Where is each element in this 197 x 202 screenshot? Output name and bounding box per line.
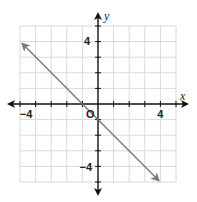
x-tick-label-pos4: 4	[157, 108, 164, 120]
x-axis-label: x	[179, 89, 186, 103]
y-axis-label: y	[103, 9, 110, 23]
line-upper-segment	[23, 44, 83, 104]
x-tick-label-neg4: −4	[20, 108, 33, 120]
y-tick-label-pos4: 4	[84, 35, 91, 47]
y-tick-label-neg4: −4	[79, 161, 92, 173]
origin-label: O	[86, 108, 95, 120]
coordinate-plane: x y O −4 4 4 −4	[0, 0, 197, 202]
